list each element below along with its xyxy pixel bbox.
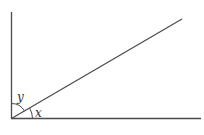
- angle-diagram: y x: [0, 0, 204, 135]
- angle-label-y: y: [16, 90, 24, 104]
- angle-arc-x: [30, 108, 33, 119]
- angle-label-x: x: [35, 106, 42, 120]
- diagonal-ray: [12, 19, 183, 119]
- angle-arc-y: [12, 103, 25, 111]
